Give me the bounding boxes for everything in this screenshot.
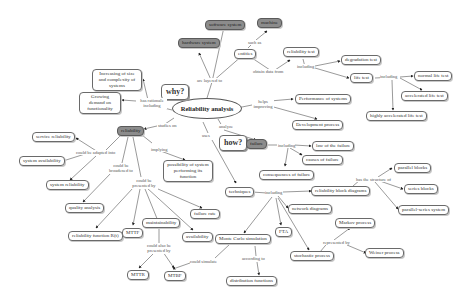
- node-distribution-functions[interactable]: distribution functions: [226, 276, 277, 286]
- node-development-process[interactable]: Development process: [292, 120, 343, 130]
- node-parallel-blocks[interactable]: parallel blocks: [394, 163, 431, 173]
- node-law-of-failure[interactable]: law of the failure: [312, 141, 354, 151]
- node-consequences-of-failure[interactable]: consequences of failure: [259, 170, 314, 180]
- node-degradation-test[interactable]: degradation test: [341, 55, 381, 65]
- node-system-availability[interactable]: system availability: [19, 156, 65, 166]
- node-growing-demand[interactable]: Growing demand on functionality: [79, 92, 121, 114]
- node-series-blocks[interactable]: series blocks: [404, 184, 438, 194]
- link-label-are-layered-to: are layered to: [197, 78, 222, 83]
- node-entities[interactable]: entities: [234, 49, 256, 59]
- link-label-analyze: analyze: [219, 124, 233, 129]
- node-techniques[interactable]: techniques: [225, 187, 254, 197]
- node-failure-rate[interactable]: failure rate: [190, 209, 220, 219]
- node-parallel-series-system[interactable]: parallel-series system: [398, 205, 449, 215]
- link-label-obtain-data-from: obtain data from: [253, 69, 283, 74]
- node-causes-of-failure[interactable]: causes of failure: [302, 155, 343, 165]
- node-reliability[interactable]: reliability: [117, 126, 144, 136]
- node-increasing-size-complexity[interactable]: Increasing of size and complexity of sys…: [92, 69, 142, 91]
- node-how[interactable]: how?: [219, 135, 247, 151]
- link-label-studies-on: studies on: [158, 123, 177, 128]
- node-maintainability[interactable]: maintainability: [142, 218, 180, 228]
- node-failure[interactable]: failure: [246, 139, 267, 149]
- link-label-could-be-adapted-into: could be adapted into: [76, 150, 115, 155]
- node-stochastic-process[interactable]: stochastic process: [290, 251, 334, 261]
- node-reliability-block-diagrams[interactable]: reliability block diagrams: [311, 186, 370, 196]
- node-life-test[interactable]: life test: [350, 73, 373, 83]
- concept-map: Reliability analysis software system mac…: [0, 0, 470, 298]
- node-reliability-test[interactable]: reliability test: [283, 47, 319, 57]
- node-availability[interactable]: availability: [182, 232, 213, 242]
- node-quality-analysis[interactable]: quality analysis: [65, 203, 104, 213]
- node-network-diagrams[interactable]: network diagrams: [288, 204, 332, 214]
- link-label-represented-by: represented by: [323, 240, 350, 245]
- node-normal-life-test[interactable]: normal life test: [414, 71, 452, 81]
- node-mttr[interactable]: MTTR: [127, 270, 149, 280]
- node-service-reliability[interactable]: service reliability: [32, 132, 75, 142]
- node-monte-carlo-simulation[interactable]: Monte Carlo simulation: [215, 234, 271, 244]
- link-label-including-lt: including: [380, 74, 397, 79]
- node-possibility-of-system[interactable]: possibility of system performing its fun…: [163, 160, 213, 182]
- node-mttf[interactable]: MTTF: [122, 228, 143, 238]
- node-reliability-function[interactable]: reliability function R(t): [68, 231, 123, 241]
- link-label-could-simulate: could simulate: [190, 259, 217, 264]
- link-label-has-the-structure-of: has the structure of: [356, 177, 391, 182]
- node-mtbf[interactable]: MTBF: [164, 271, 186, 281]
- node-accelerated-life-test[interactable]: accelerated life test: [401, 91, 448, 101]
- link-label-such-as: such as: [248, 40, 261, 45]
- link-label-implying: implying: [151, 147, 168, 152]
- link-label-uses: uses: [202, 133, 210, 138]
- node-software-system[interactable]: software system: [205, 20, 245, 30]
- central-node-reliability-analysis[interactable]: Reliability analysis: [172, 98, 242, 119]
- link-label-helps-improving: helps improving: [252, 99, 274, 110]
- node-system-reliability[interactable]: system reliability: [46, 180, 89, 190]
- link-label-could-be-broadened-to: could be broadened to: [108, 163, 134, 174]
- link-label-could-also-be-presented-by: could also be presented by: [141, 243, 177, 254]
- node-hardware-system[interactable]: hardware system: [178, 38, 220, 48]
- link-label-could-be-presented-by: could be presented by: [131, 178, 157, 189]
- node-weiner-process[interactable]: Weiner process: [365, 248, 404, 258]
- link-label-has-rationale: has rationale including: [137, 98, 167, 109]
- link-label-including-tech: including: [265, 190, 282, 195]
- node-machine[interactable]: machine: [257, 18, 282, 28]
- node-highly-accelerated-life-test[interactable]: highly accelerated life test: [366, 111, 427, 121]
- link-label-including-rt: including: [297, 64, 314, 69]
- link-label-according-to: according to: [242, 256, 265, 261]
- node-markov-process[interactable]: Markov process: [335, 218, 375, 228]
- link-label-including-failure: including: [278, 143, 295, 148]
- node-performance-of-systems[interactable]: Performance of systems: [295, 94, 351, 104]
- node-fta[interactable]: FTA: [275, 227, 292, 237]
